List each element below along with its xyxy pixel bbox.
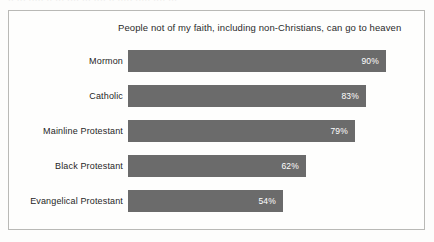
bar-row: Catholic83% — [9, 85, 425, 107]
bar-category-label: Mormon — [9, 50, 123, 72]
bar: 54% — [128, 190, 283, 212]
bar-value-label: 83% — [341, 85, 359, 107]
chart-page: ·· ··· ····· ·· ··· ···· ··· ···· ·· ···… — [0, 0, 434, 242]
bar-row: Black Protestant62% — [9, 155, 425, 177]
bar-row: Mainline Protestant79% — [9, 120, 425, 142]
bar-row: Evangelical Protestant54% — [9, 190, 425, 212]
bar-value-label: 90% — [361, 50, 379, 72]
bar-category-label: Catholic — [9, 85, 123, 107]
bar: 83% — [128, 85, 366, 107]
bar-category-label: Black Protestant — [9, 155, 123, 177]
bar-value-label: 79% — [330, 120, 348, 142]
bar-chart-plot-area: Mormon90%Catholic83%Mainline Protestant7… — [9, 44, 425, 230]
bar: 62% — [128, 155, 306, 177]
bar-category-label: Evangelical Protestant — [9, 190, 123, 212]
bar: 90% — [128, 50, 386, 72]
top-edge-text-remnant: ·· ··· ····· ·· ··· ···· ··· ···· ·· ···… — [8, 0, 426, 5]
bar-category-label: Mainline Protestant — [9, 120, 123, 142]
chart-title: People not of my faith, including non-Ch… — [118, 22, 423, 34]
bar-row: Mormon90% — [9, 50, 425, 72]
bar-value-label: 54% — [258, 190, 276, 212]
bar: 79% — [128, 120, 355, 142]
bar-value-label: 62% — [281, 155, 299, 177]
